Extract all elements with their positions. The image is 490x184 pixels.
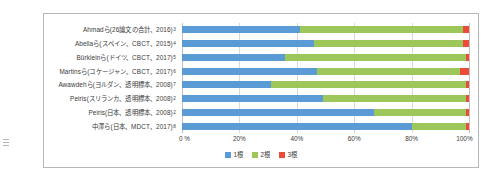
bar-segment-2根[interactable]	[317, 68, 461, 75]
stacked-bar[interactable]	[182, 109, 469, 116]
bar-segment-2根[interactable]	[323, 95, 467, 102]
stacked-bar[interactable]	[182, 123, 469, 130]
bar-row	[182, 23, 469, 37]
bar-row	[182, 78, 469, 92]
category-label: Ahmadら(26論文の合計、2016)3	[44, 23, 180, 37]
bar-segment-3根[interactable]	[463, 26, 469, 33]
bar-segment-3根[interactable]	[463, 40, 469, 47]
category-label: Martinsら(コケージャン、CBCT、2017)6	[44, 64, 180, 78]
bar-segment-3根[interactable]	[466, 109, 469, 116]
bar-row	[182, 37, 469, 51]
category-label-text: Ahmadら(26論文の合計、2016)	[83, 25, 173, 34]
bar-segment-3根[interactable]	[466, 95, 469, 102]
bar-segment-3根[interactable]	[460, 68, 469, 75]
bar-segment-2根[interactable]	[412, 123, 467, 130]
legend-swatch-icon	[279, 152, 285, 158]
bar-segment-2根[interactable]	[271, 81, 466, 88]
bar-segment-1根[interactable]	[182, 68, 317, 75]
x-tick-label: 0 %	[179, 135, 190, 142]
bar-segment-1根[interactable]	[182, 40, 314, 47]
x-tick-label: 20%	[233, 135, 246, 142]
bar-segment-1根[interactable]	[182, 95, 323, 102]
category-label-text: Peiris(スリランカ、透明標本、2008)	[70, 94, 173, 103]
category-label: Peiris(日本、透明標本、2008)2	[44, 106, 180, 120]
gridline-100	[469, 23, 470, 133]
stacked-bar[interactable]	[182, 68, 469, 75]
bar-segment-3根[interactable]	[466, 81, 469, 88]
stacked-bar[interactable]	[182, 40, 469, 47]
category-label-superscript: 5	[173, 55, 176, 60]
stacked-bar[interactable]	[182, 95, 469, 102]
stacked-bar[interactable]	[182, 26, 469, 33]
bar-row	[182, 51, 469, 65]
category-label-superscript: 4	[173, 41, 176, 46]
bar-row	[182, 119, 469, 133]
category-axis-labels: Ahmadら(26論文の合計、2016)3Abellaら(スペイン、CBCT、2…	[44, 23, 180, 133]
category-label-superscript: 8	[173, 124, 176, 129]
chart-container: Ahmadら(26論文の合計、2016)3Abellaら(スペイン、CBCT、2…	[43, 13, 479, 168]
legend-label: 3根	[288, 150, 298, 159]
category-label: 中澤ら(日本、MDCT、2017)8	[44, 119, 180, 133]
category-label-superscript: 7	[173, 82, 176, 87]
category-label-text: 中澤ら(日本、MDCT、2017)	[92, 122, 173, 131]
bar-row	[182, 64, 469, 78]
category-label: Abellaら(スペイン、CBCT、2015)4	[44, 37, 180, 51]
category-label: Awawdehら(ヨルダン、透明標本、2008)7	[44, 78, 180, 92]
legend-item[interactable]: 3根	[279, 150, 297, 159]
category-label-text: Bürkleinら(ドイツ、CBCT、2017)	[76, 53, 172, 62]
bar-row	[182, 92, 469, 106]
category-label-text: Abellaら(スペイン、CBCT、2015)	[75, 39, 173, 48]
legend-item[interactable]: 1根	[225, 150, 243, 159]
legend-swatch-icon	[225, 152, 231, 158]
bar-segment-3根[interactable]	[466, 123, 469, 130]
legend-label: 1根	[233, 150, 243, 159]
legend-item[interactable]: 2根	[252, 150, 270, 159]
bar-segment-2根[interactable]	[300, 26, 464, 33]
bar-row	[182, 106, 469, 120]
chart-legend: 1根2根3根	[44, 150, 478, 159]
bar-segment-1根[interactable]	[182, 109, 374, 116]
category-label: Bürkleinら(ドイツ、CBCT、2017)5	[44, 51, 180, 65]
x-tick-label: 100%	[456, 135, 472, 142]
category-label-superscript: 3	[173, 27, 176, 32]
category-label-text: Awawdehら(ヨルダン、透明標本、2008)	[58, 80, 172, 89]
category-label: Peiris(スリランカ、透明標本、2008)2	[44, 92, 180, 106]
legend-swatch-icon	[252, 152, 258, 158]
category-label-superscript: 2	[173, 96, 176, 101]
bar-segment-1根[interactable]	[182, 123, 412, 130]
category-label-text: Peiris(日本、透明標本、2008)	[88, 108, 172, 117]
bar-segment-2根[interactable]	[314, 40, 463, 47]
page-edge-artifact	[3, 139, 9, 147]
category-label-superscript: 6	[173, 69, 176, 74]
plot-area	[182, 23, 469, 133]
bar-rows	[182, 23, 469, 133]
legend-label: 2根	[260, 150, 270, 159]
category-label-text: Martinsら(コケージャン、CBCT、2017)	[59, 67, 172, 76]
stacked-bar[interactable]	[182, 54, 469, 61]
bar-segment-2根[interactable]	[374, 109, 466, 116]
bar-segment-1根[interactable]	[182, 26, 300, 33]
bar-segment-1根[interactable]	[182, 54, 285, 61]
stacked-bar[interactable]	[182, 81, 469, 88]
x-tick-label: 80%	[405, 135, 418, 142]
x-axis-tick-labels: 0 %20%40%60%80%100%	[182, 135, 469, 147]
bar-segment-1根[interactable]	[182, 81, 271, 88]
bar-segment-3根[interactable]	[466, 54, 469, 61]
bar-segment-2根[interactable]	[285, 54, 466, 61]
x-tick-label: 60%	[348, 135, 361, 142]
category-label-superscript: 2	[173, 110, 176, 115]
x-tick-label: 40%	[290, 135, 303, 142]
